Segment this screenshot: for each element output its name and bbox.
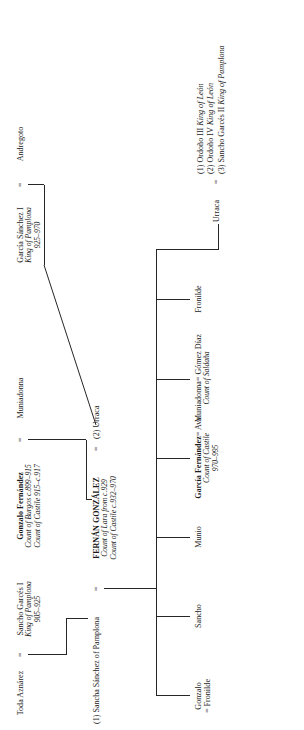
person-name: Munio <box>194 508 203 566</box>
person-name: Sancha Sánchez of Pamplona <box>92 617 101 713</box>
node-munio: Munio <box>194 508 203 566</box>
person-dates: 970–995 <box>212 402 221 514</box>
spouse-name: Ordoño III <box>196 128 205 163</box>
stem-urraca-daughter <box>156 249 218 250</box>
list-item: (3) Sancho Garcés II King of Pamplona <box>217 4 227 174</box>
connector-gen2-descent <box>104 588 156 589</box>
person-name: Sancho <box>194 587 203 645</box>
spouse-name: Ordoño IV <box>206 127 215 162</box>
stem-munio <box>156 537 190 538</box>
person-name: Fronilde <box>194 270 203 328</box>
sibling-bar-gen3 <box>156 250 157 696</box>
person-name: Gonzalo <box>194 664 203 728</box>
person-spouse: = Fronilde <box>203 664 212 728</box>
person-name-with-order: (1) Sancha Sánchez of Pamplona <box>92 602 101 724</box>
marriage-symbol-sancha-fernan: = <box>92 584 101 594</box>
stem-muniadonna <box>156 379 190 380</box>
marriage-order: (2) <box>92 430 101 439</box>
spouse-title: King of Pamplona <box>217 45 226 104</box>
node-muniadonna-junior: Muniadonna= Gómez Díaz Count of Saldaña <box>194 322 212 434</box>
connector-urraca-daughter-jog <box>218 224 219 250</box>
list-item: (2) Ordoño IV King of León <box>206 4 216 174</box>
person-name: Urraca <box>92 406 101 428</box>
marriage-symbol-urraca-issue: = <box>212 177 221 187</box>
person-title-castile: Count of Castile c.932–970 <box>110 458 119 578</box>
urraca-marriages-list: (1) Ordoño III King of León (2) Ordoño I… <box>196 4 227 174</box>
family-tree-canvas: Toda Aznárez = Sancho Garcés I King of P… <box>0 0 304 730</box>
marriage-order: (1) <box>196 165 205 174</box>
stem-fronilde <box>156 299 190 300</box>
person-name-with-order: (2) Urraca <box>92 379 101 439</box>
marriage-symbol-fernan-urraca: = <box>92 444 101 454</box>
node-urraca-daughter: Urraca <box>212 186 221 222</box>
node-gonzalo: Gonzalo = Fronilde <box>194 664 212 728</box>
spouse-name: Sancho Garcés II <box>217 107 226 163</box>
node-sancho: Sancho <box>194 587 203 645</box>
rotated-diagram-wrapper: Toda Aznárez = Sancho Garcés I King of P… <box>0 0 304 730</box>
marriage-order: (1) <box>92 715 101 724</box>
node-fernan-gonzalez: FERNÁN GONZÁLEZ Count of Lara from c.929… <box>92 458 118 578</box>
person-name: Urraca <box>212 186 221 222</box>
node-sancha-sanchez: (1) Sancha Sánchez of Pamplona <box>92 602 101 724</box>
stem-garcia-fernandez <box>156 458 190 459</box>
node-fronilde: Fronilde <box>194 270 203 328</box>
marriage-order: (2) <box>206 165 215 174</box>
spouse-title: King of León <box>196 83 205 125</box>
stem-sancho <box>156 616 190 617</box>
marriage-order: (3) <box>217 165 226 174</box>
stem-gonzalo <box>156 695 190 696</box>
list-item: (1) Ordoño III King of León <box>196 4 206 174</box>
connector-diagonal-to-urraca <box>0 0 304 730</box>
spouse-title: Count of Saldaña <box>203 322 212 434</box>
spouse-title: King of León <box>206 83 215 125</box>
node-urraca-second-wife: (2) Urraca <box>92 379 101 439</box>
